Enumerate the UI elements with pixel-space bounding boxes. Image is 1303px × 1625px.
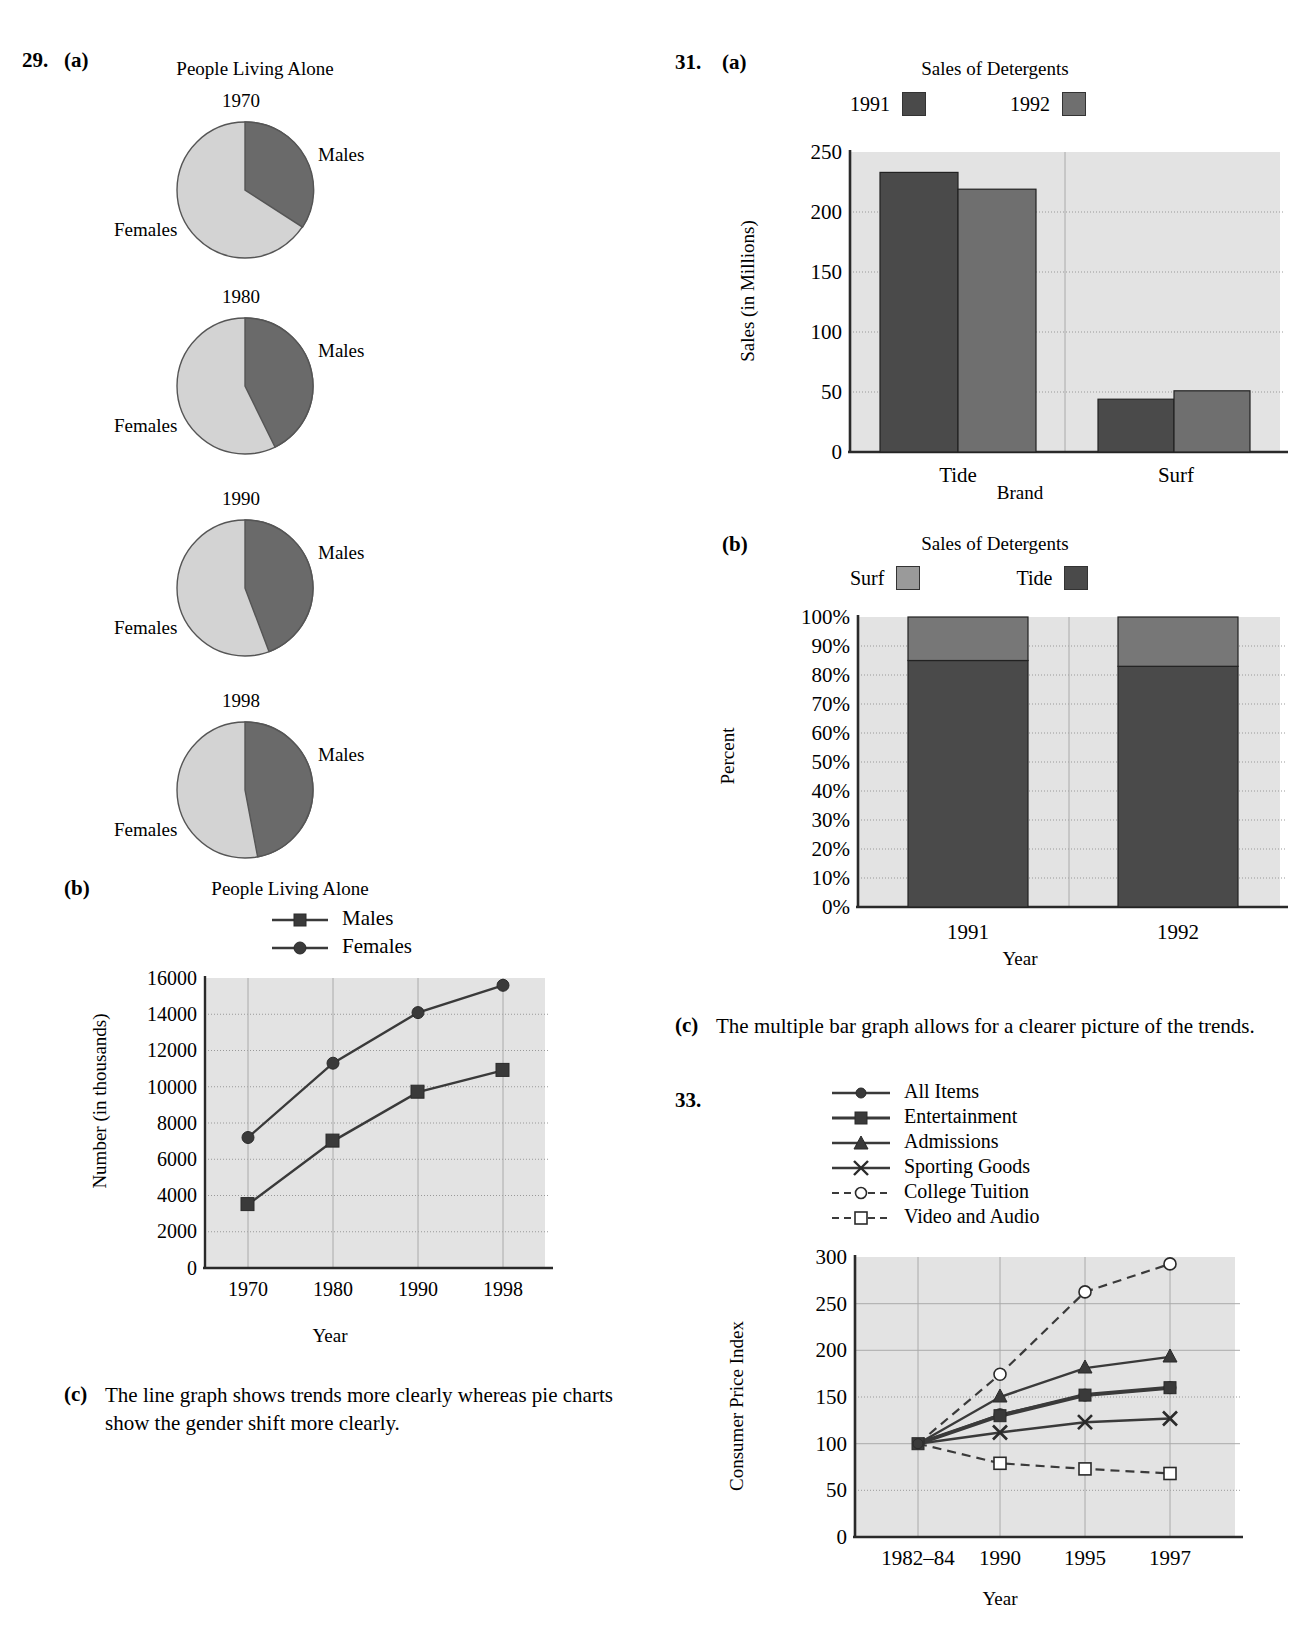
svg-text:1991: 1991 <box>947 920 989 944</box>
left-column: 29. (a) People Living Alone 1970 Males F… <box>0 0 650 1625</box>
svg-text:100%: 100% <box>801 605 850 629</box>
svg-text:0: 0 <box>837 1525 848 1549</box>
legend-label-all-items: All Items <box>896 1080 979 1102</box>
svg-text:40%: 40% <box>812 779 851 803</box>
svg-text:70%: 70% <box>812 692 851 716</box>
svg-text:1970: 1970 <box>228 1278 268 1300</box>
svg-text:80%: 80% <box>812 663 851 687</box>
svg-text:100: 100 <box>816 1432 848 1456</box>
svg-text:1992: 1992 <box>1157 920 1199 944</box>
problem-33-number: 33. <box>675 1088 701 1113</box>
svg-text:100: 100 <box>811 320 843 344</box>
svg-text:1980: 1980 <box>313 1278 353 1300</box>
legend-dashed-open-square-icon <box>830 1207 892 1229</box>
pie-1998-males-label: Males <box>318 744 364 766</box>
svg-text:1982–84: 1982–84 <box>881 1546 955 1570</box>
bar-chart-xlabel: Brand <box>850 482 1190 504</box>
svg-text:1990: 1990 <box>398 1278 438 1300</box>
pie-1980-males-label: Males <box>318 340 364 362</box>
bar-chart-title: Sales of Detergents <box>800 58 1190 80</box>
svg-text:16000: 16000 <box>147 968 197 989</box>
pie-1970-males-label: Males <box>318 144 364 166</box>
pie-1990-year: 1990 <box>222 488 260 510</box>
problem-29-part-b-label: (b) <box>64 876 90 901</box>
svg-text:150: 150 <box>816 1385 848 1409</box>
svg-text:0%: 0% <box>822 895 850 919</box>
problem-29-part-a-label: (a) <box>64 48 89 73</box>
svg-text:150: 150 <box>811 260 843 284</box>
problem-29-part-c-label: (c) <box>64 1382 87 1407</box>
stacked-chart-graphic: 100% 90% 80% 70% 60% 50% 40% 30% 20% 10%… <box>740 605 1300 1005</box>
cpi-chart-ylabel: Consumer Price Index <box>726 1236 748 1576</box>
pie-group-title: People Living Alone <box>110 58 400 80</box>
legend-line-triangle-icon <box>830 1132 892 1154</box>
pie-1990-males-label: Males <box>318 542 364 564</box>
svg-text:90%: 90% <box>812 634 851 658</box>
problem-31-part-c-label: (c) <box>675 1013 698 1038</box>
svg-text:50: 50 <box>821 380 842 404</box>
svg-text:250: 250 <box>816 1292 848 1316</box>
legend-swatch-1991 <box>902 92 926 116</box>
svg-text:10%: 10% <box>812 866 851 890</box>
pie-1980-year: 1980 <box>222 286 260 308</box>
legend-swatch-surf <box>896 566 920 590</box>
legend-label-sporting-goods: Sporting Goods <box>896 1155 1030 1177</box>
legend-label-entertainment: Entertainment <box>896 1105 1017 1127</box>
bar-chart-ylabel: Sales (in Millions) <box>737 126 759 456</box>
pie-1970-females-label: Females <box>114 219 177 241</box>
cpi-chart-graphic: 300 250 200 150 100 50 0 1982–84 1990 19… <box>735 1245 1275 1625</box>
legend-line-square-icon <box>270 908 330 932</box>
svg-text:14000: 14000 <box>147 1003 197 1025</box>
pie-1970-graphic <box>175 120 315 260</box>
legend-label-1992: 1992 <box>1010 93 1050 115</box>
svg-text:2000: 2000 <box>157 1220 197 1242</box>
line-chart-xlabel: Year <box>160 1325 500 1347</box>
legend-item-females: Females <box>270 934 412 962</box>
legend-line-square-icon <box>830 1107 892 1129</box>
problem-31-number: 31. <box>675 50 701 75</box>
stacked-chart-xlabel: Year <box>850 948 1190 970</box>
cpi-chart-legend: All Items Entertainment Admissions Sport… <box>830 1080 1039 1230</box>
legend-line-circle-icon <box>270 936 330 960</box>
svg-text:1995: 1995 <box>1064 1546 1106 1570</box>
svg-text:250: 250 <box>811 140 843 164</box>
svg-text:200: 200 <box>816 1338 848 1362</box>
bar-chart-legend: 1991 1992 <box>850 92 1086 116</box>
svg-text:6000: 6000 <box>157 1148 197 1170</box>
problem-31-part-b-label: (b) <box>722 532 748 557</box>
svg-text:1998: 1998 <box>483 1278 523 1300</box>
svg-text:1997: 1997 <box>1149 1546 1191 1570</box>
legend-label-video-and-audio: Video and Audio <box>896 1205 1039 1227</box>
problem-31-part-a-label: (a) <box>722 50 747 75</box>
legend-label-males: Males <box>334 906 393 930</box>
svg-text:10000: 10000 <box>147 1076 197 1098</box>
line-chart-title: People Living Alone <box>140 878 440 900</box>
problem-29-number: 29. <box>22 48 48 73</box>
legend-item-sporting-goods: Sporting Goods <box>830 1155 1039 1180</box>
legend-line-cross-icon <box>830 1157 892 1179</box>
legend-dashed-open-circle-icon <box>830 1182 892 1204</box>
cpi-chart-xlabel: Year <box>850 1588 1150 1610</box>
line-chart-legend: Males Females <box>270 906 412 962</box>
svg-text:300: 300 <box>816 1245 848 1269</box>
pie-1998-females-label: Females <box>114 819 177 841</box>
problem-29-part-c-text: The line graph shows trends more clearly… <box>105 1382 625 1437</box>
legend-item-entertainment: Entertainment <box>830 1105 1039 1130</box>
legend-swatch-tide <box>1064 566 1088 590</box>
svg-text:8000: 8000 <box>157 1112 197 1134</box>
pie-1998-year: 1998 <box>222 690 260 712</box>
pie-1980-females-label: Females <box>114 415 177 437</box>
pie-1990-females-label: Females <box>114 617 177 639</box>
legend-item-admissions: Admissions <box>830 1130 1039 1155</box>
line-chart-graphic: 16000 14000 12000 10000 8000 6000 4000 2… <box>105 968 575 1318</box>
svg-text:0: 0 <box>187 1257 197 1279</box>
right-column: 31. (a) Sales of Detergents 1991 1992 25… <box>650 0 1303 1625</box>
legend-item-males: Males <box>270 906 412 934</box>
line-chart-ylabel: Number (in thousands) <box>89 961 111 1241</box>
stacked-chart-legend: Surf Tide <box>850 566 1088 590</box>
pie-1970-year: 1970 <box>222 90 260 112</box>
svg-text:12000: 12000 <box>147 1039 197 1061</box>
stacked-chart-ylabel: Percent <box>717 666 739 846</box>
legend-label-females: Females <box>334 934 412 958</box>
svg-text:20%: 20% <box>812 837 851 861</box>
